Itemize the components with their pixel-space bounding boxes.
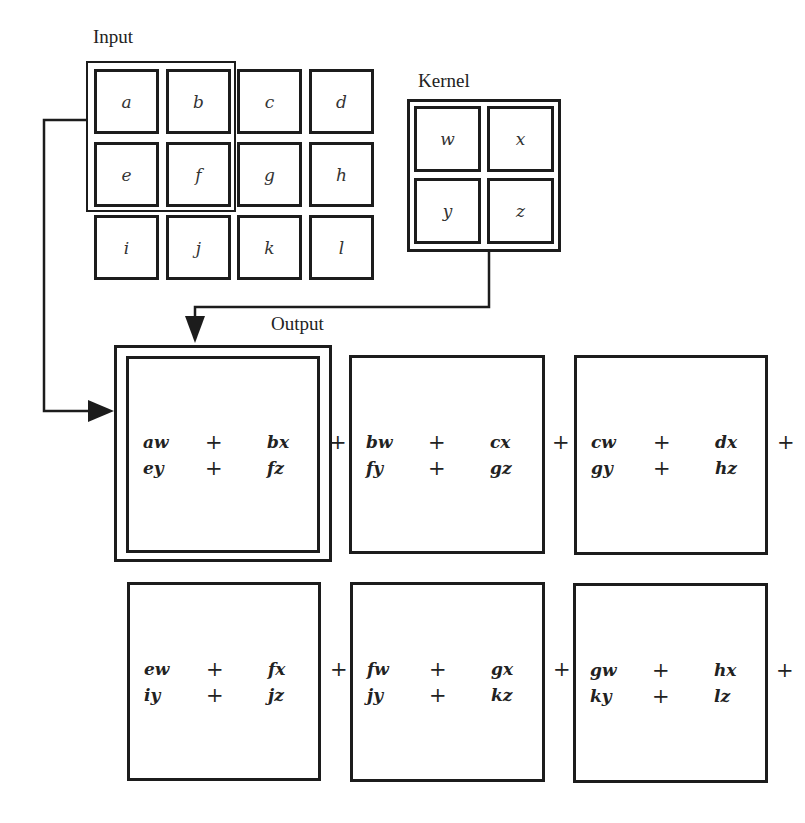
term: ey: [143, 458, 205, 478]
input-cell: l: [309, 215, 374, 280]
term: aw: [143, 432, 205, 452]
term: gw: [590, 660, 652, 680]
output-expression: aw+bx+ ey+fz: [143, 429, 349, 481]
plus: +: [330, 657, 350, 681]
plus: +: [205, 456, 267, 480]
term: gy: [591, 458, 653, 478]
plus: +: [429, 657, 491, 681]
output-expression: fw+gx+ jy+kz: [367, 656, 573, 708]
term: hx: [714, 660, 776, 680]
input-arrowhead-icon: [88, 400, 114, 422]
term: lz: [714, 686, 776, 706]
term: fx: [268, 659, 330, 679]
output-cell: gw+hx+ ky+lz: [573, 583, 768, 783]
input-window-highlight: [86, 61, 236, 212]
term: jz: [268, 685, 330, 705]
term: fw: [367, 659, 429, 679]
output-expression: ew+fx+ iy+jz: [144, 656, 350, 708]
output-label: Output: [271, 313, 324, 335]
input-to-output-arrow-line: [44, 120, 90, 411]
kernel-arrowhead-icon: [185, 316, 205, 343]
input-label: Input: [93, 26, 133, 48]
term: cx: [490, 432, 552, 452]
term: fy: [366, 458, 428, 478]
term: ew: [144, 659, 206, 679]
kernel-cell: y: [414, 178, 481, 244]
kernel-cell: z: [487, 178, 554, 244]
term: jy: [367, 685, 429, 705]
output-cell: ew+fx+ iy+jz: [127, 582, 321, 781]
input-cell: j: [166, 215, 231, 280]
input-cell: h: [309, 142, 374, 207]
term: cw: [591, 432, 653, 452]
plus: +: [428, 430, 490, 454]
input-cell: d: [309, 69, 374, 134]
plus: +: [552, 430, 572, 454]
plus: +: [652, 684, 714, 708]
term: bw: [366, 432, 428, 452]
plus: +: [206, 657, 268, 681]
term: iy: [144, 685, 206, 705]
input-cell: g: [237, 142, 302, 207]
output-cell: fw+gx+ jy+kz: [350, 582, 545, 782]
output-expression: bw+cx+ fy+gz: [366, 429, 572, 481]
input-cell: k: [237, 215, 302, 280]
output-expression: gw+hx+ ky+lz: [590, 657, 796, 709]
term: ky: [590, 686, 652, 706]
plus: +: [652, 658, 714, 682]
term: kz: [491, 685, 553, 705]
output-cell: bw+cx+ fy+gz: [349, 355, 545, 554]
kernel-label: Kernel: [418, 70, 470, 92]
plus: +: [429, 683, 491, 707]
term: gx: [491, 659, 553, 679]
term: gz: [490, 458, 552, 478]
term: fz: [267, 458, 329, 478]
output-cell: aw+bx+ ey+fz: [126, 356, 320, 553]
kernel-cell: w: [414, 106, 481, 172]
plus: +: [653, 456, 715, 480]
term: dx: [715, 432, 777, 452]
plus: +: [776, 658, 796, 682]
plus: +: [205, 430, 267, 454]
term: hz: [715, 458, 777, 478]
input-cell: i: [94, 215, 159, 280]
plus: +: [428, 456, 490, 480]
plus: +: [653, 430, 715, 454]
plus: +: [206, 683, 268, 707]
plus: +: [329, 430, 349, 454]
output-expression: cw+dx+ gy+hz: [591, 429, 797, 481]
plus: +: [777, 430, 797, 454]
term: bx: [267, 432, 329, 452]
input-cell: c: [237, 69, 302, 134]
plus: +: [553, 657, 573, 681]
kernel-cell: x: [487, 106, 554, 172]
output-cell: cw+dx+ gy+hz: [574, 355, 768, 555]
